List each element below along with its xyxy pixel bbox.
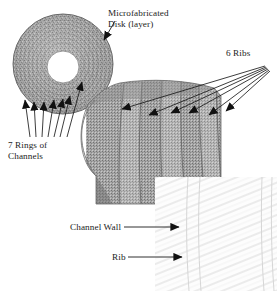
label-disk-line2: Disk (layer) xyxy=(108,19,169,30)
channel-wall-inset xyxy=(155,177,277,291)
label-channel-wall: Channel Wall xyxy=(70,222,121,233)
leader-ring-1 xyxy=(25,100,30,137)
label-rib: Rib xyxy=(112,252,126,263)
label-microfabricated-disk: Microfabricated Disk (layer) xyxy=(108,8,169,30)
inset-hatch xyxy=(155,177,277,291)
leader-ring-2 xyxy=(34,102,36,137)
label-rings-line2: Channels xyxy=(8,151,47,162)
disk-center-hole xyxy=(47,51,79,83)
label-7-rings-of-channels: 7 Rings of Channels xyxy=(8,140,47,162)
label-rings-line1: 7 Rings of xyxy=(8,140,47,150)
label-6-ribs: 6 Ribs xyxy=(226,48,250,59)
figure-canvas: Microfabricated Disk (layer) 6 Ribs 7 Ri… xyxy=(0,0,277,291)
label-disk-line1: Microfabricated xyxy=(108,8,169,18)
